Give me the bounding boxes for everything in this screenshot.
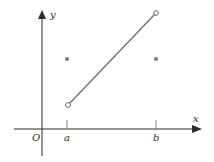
- function-graph: y x O a b: [0, 0, 214, 162]
- origin-label: O: [32, 132, 40, 143]
- filled-point-b: [154, 57, 158, 61]
- x-axis-label: x: [193, 113, 199, 124]
- tick-label-b: b: [153, 132, 159, 143]
- open-endpoint-b: [154, 11, 159, 16]
- y-axis-label: y: [49, 9, 56, 20]
- open-endpoint-a: [66, 103, 71, 108]
- line-segment: [69, 14, 155, 104]
- y-axis-arrow-icon: [38, 10, 46, 19]
- filled-point-a: [65, 57, 69, 61]
- tick-label-a: a: [64, 132, 70, 143]
- x-axis-arrow-icon: [192, 125, 202, 133]
